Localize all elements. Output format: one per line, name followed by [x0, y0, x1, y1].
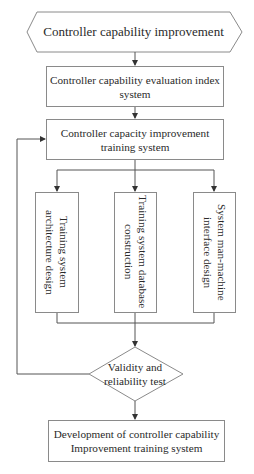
decision-label-2: reliability test [104, 374, 166, 388]
branch-architecture-label-1: Training system [58, 216, 70, 288]
branch-database-label-2: construction [123, 224, 135, 279]
branch-architecture-node: Training system architecture design [35, 192, 79, 313]
branch-architecture-label-2: architecture design [44, 210, 56, 295]
end-label-2: Improvement training system [71, 441, 203, 455]
decision-label-1: Validity and [108, 360, 162, 374]
end-label-1: Development of controller capability [54, 427, 220, 441]
branch-interface-label-2: interface design [202, 217, 214, 288]
branch-interface-node: System man-machine interface design [193, 192, 236, 313]
evaluation-index-label-2: system [119, 87, 150, 101]
start-label: Controller capability improvement [43, 25, 224, 39]
evaluation-index-label-1: Controller capability evaluation index [50, 73, 220, 87]
start-node: Controller capability improvement [37, 12, 230, 52]
training-system-label-2: training system [101, 140, 170, 154]
branch-database-node: Training system database construction [114, 192, 157, 313]
branch-interface-label-1: System man-machine [216, 204, 228, 301]
decision-node: Validity and reliability test [95, 358, 175, 390]
training-system-node: Controller capacity improvement training… [46, 119, 224, 160]
branch-database-label-1: Training system database [137, 195, 149, 308]
training-system-label-1: Controller capacity improvement [61, 126, 210, 140]
evaluation-index-node: Controller capability evaluation index s… [46, 66, 224, 107]
end-node: Development of controller capability Imp… [48, 420, 225, 462]
